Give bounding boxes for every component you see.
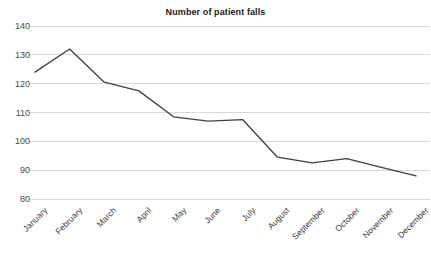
x-tick-label-text: January [22, 206, 49, 233]
chart-container: Number of patient falls 8090100110120130… [0, 0, 431, 254]
x-tick-label-text: September [291, 206, 326, 241]
x-tick-label-text: July [240, 206, 257, 223]
x-tick-label-text: August [267, 206, 292, 231]
x-tick-label-text: March [96, 206, 119, 229]
x-axis-tick-labels: JanuaryFebruaryMarchAprilMayJuneJulyAugu… [0, 0, 431, 254]
x-tick-label-text: April [135, 206, 153, 224]
x-tick-label-text: October [333, 206, 360, 233]
x-tick-label-text: May [170, 206, 187, 223]
x-tick-label-text: December [396, 206, 430, 240]
x-tick-label-text: June [203, 206, 222, 225]
x-tick-label-text: February [54, 206, 84, 236]
x-tick-label-text: November [362, 206, 396, 240]
